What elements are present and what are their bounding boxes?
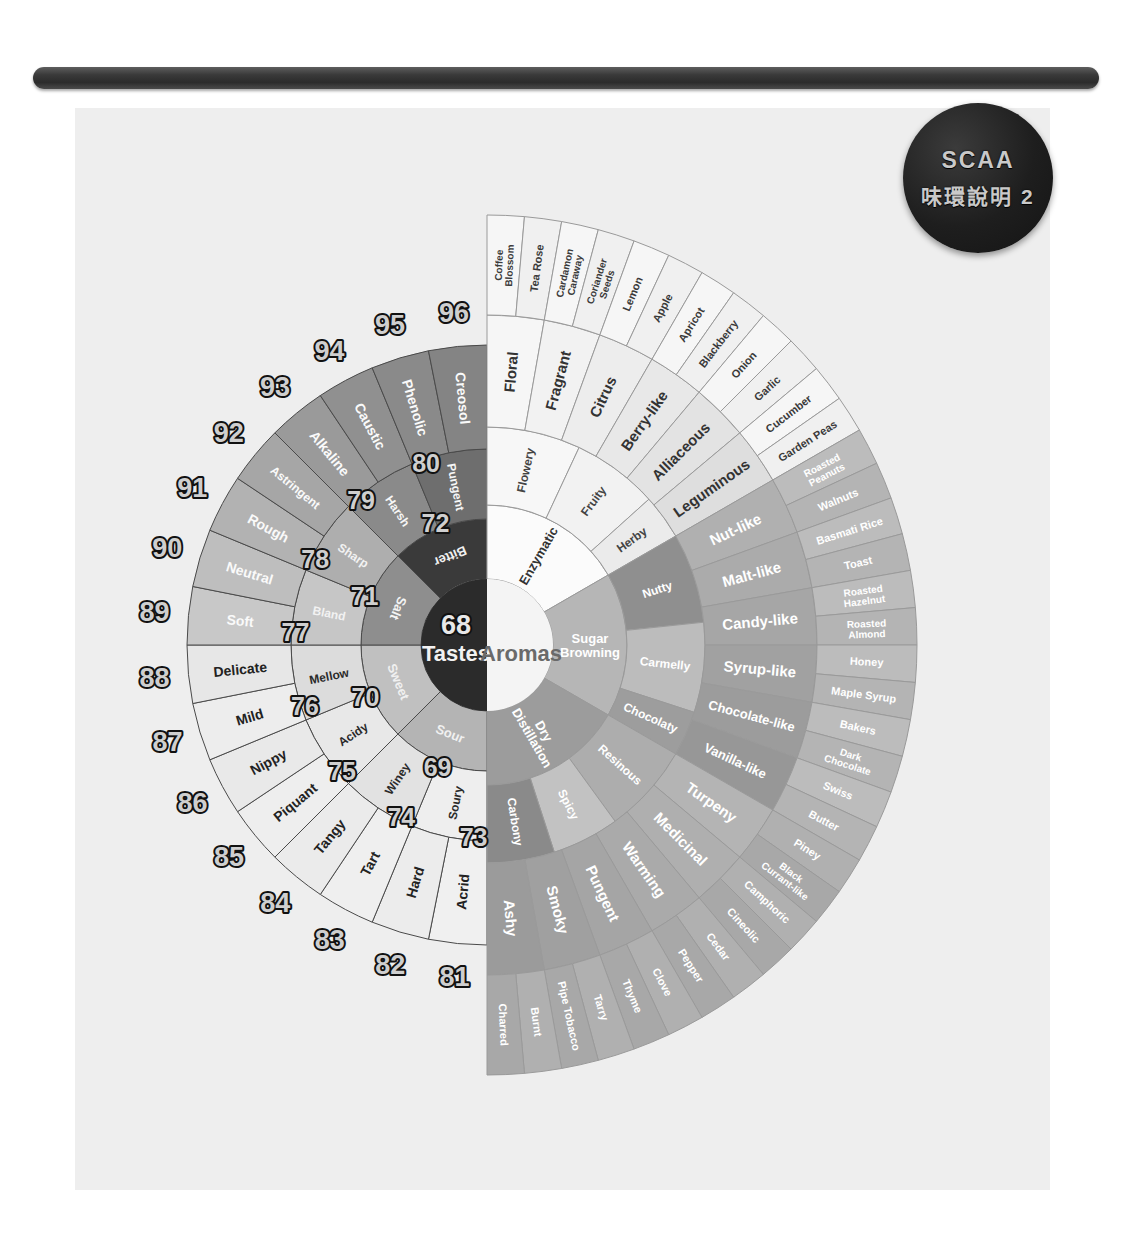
center-number: 68: [441, 610, 471, 640]
number-73: 73: [460, 823, 488, 851]
poster-hanging-rod: [33, 67, 1099, 89]
number-70: 70: [352, 683, 380, 711]
number-74: 74: [387, 803, 415, 831]
number-87: 87: [152, 727, 182, 757]
number-88: 88: [140, 663, 170, 693]
number-95: 95: [375, 310, 405, 340]
center-aromas-label: Aromas: [480, 641, 562, 666]
number-79: 79: [347, 486, 375, 514]
number-96: 96: [439, 298, 469, 328]
number-91: 91: [177, 473, 207, 503]
number-93: 93: [260, 372, 290, 402]
number-86: 86: [177, 788, 207, 818]
number-76: 76: [291, 692, 319, 720]
number-94: 94: [314, 336, 344, 366]
number-75: 75: [328, 757, 356, 785]
number-85: 85: [214, 842, 244, 872]
flavor-wheel: SourSweetSaltBitterSouryWineyAcidyMellow…: [75, 108, 1050, 1190]
number-83: 83: [315, 925, 345, 955]
number-71: 71: [351, 582, 379, 610]
number-80: 80: [412, 449, 440, 477]
number-78: 78: [301, 545, 329, 573]
number-81: 81: [439, 962, 469, 992]
number-69: 69: [424, 753, 452, 781]
number-77: 77: [282, 618, 310, 646]
number-84: 84: [260, 888, 290, 918]
number-72: 72: [422, 509, 450, 537]
number-90: 90: [152, 533, 182, 563]
number-89: 89: [140, 597, 170, 627]
number-92: 92: [214, 418, 244, 448]
number-82: 82: [375, 950, 405, 980]
